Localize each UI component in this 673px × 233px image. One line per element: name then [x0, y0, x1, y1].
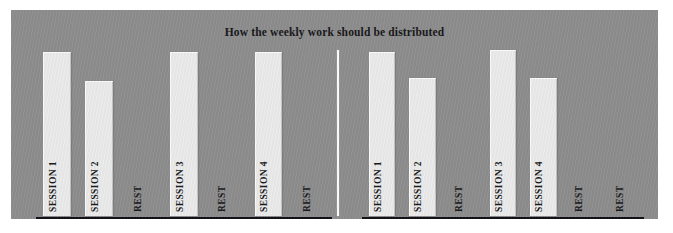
bar-label: SESSION 4: [534, 161, 544, 212]
bar-slot: SESSION 2: [78, 50, 120, 216]
rest-label: REST: [615, 186, 625, 212]
bar-slot: SESSION 4: [247, 50, 289, 216]
rest-label: REST: [454, 186, 464, 212]
bar-group-left: SESSION 1SESSION 2RESTSESSION 3RESTSESSI…: [36, 50, 332, 216]
bar-group-right: SESSION 1SESSION 2RESTSESSION 3SESSION 4…: [362, 50, 644, 216]
bar-slot: SESSION 3: [483, 50, 523, 216]
baseline-axis-left: [36, 217, 332, 219]
bar: SESSION 2: [409, 78, 436, 216]
bar: SESSION 3: [170, 52, 198, 216]
rest-label: REST: [217, 186, 227, 212]
rest-label: REST: [574, 186, 584, 212]
rest-slot: REST: [290, 50, 332, 216]
bar: SESSION 3: [490, 50, 517, 216]
bar: SESSION 1: [43, 52, 71, 216]
bar-slot: SESSION 1: [36, 50, 78, 216]
chart-panel-right: SESSION 1SESSION 2RESTSESSION 3SESSION 4…: [362, 50, 644, 216]
rest-slot: REST: [443, 50, 483, 216]
bar-slot: SESSION 3: [163, 50, 205, 216]
bar: SESSION 4: [255, 52, 283, 216]
bar-label: SESSION 4: [259, 161, 269, 212]
plot-area-right: SESSION 1SESSION 2RESTSESSION 3SESSION 4…: [362, 50, 644, 216]
rest-slot: REST: [121, 50, 163, 216]
bar-label: SESSION 1: [373, 161, 383, 212]
bar-label: SESSION 3: [494, 161, 504, 212]
bar-slot: SESSION 1: [362, 50, 402, 216]
rest-label: REST: [302, 186, 312, 212]
chart-panel-left: SESSION 1SESSION 2RESTSESSION 3RESTSESSI…: [36, 50, 332, 216]
rest-slot: REST: [604, 50, 644, 216]
bar-label: SESSION 2: [90, 161, 100, 212]
bar-label: SESSION 1: [48, 161, 58, 212]
plot-area-left: SESSION 1SESSION 2RESTSESSION 3RESTSESSI…: [36, 50, 332, 216]
panel-divider: [337, 50, 339, 216]
bar-slot: SESSION 2: [402, 50, 442, 216]
rest-label: REST: [133, 186, 143, 212]
bar-label: SESSION 3: [175, 161, 185, 212]
bar: SESSION 2: [85, 81, 113, 216]
bar: SESSION 4: [530, 78, 557, 216]
bar-label: SESSION 2: [413, 161, 423, 212]
figure-panel: How the weekly work should be distribute…: [11, 10, 658, 219]
baseline-axis-right: [362, 217, 644, 219]
rest-slot: REST: [205, 50, 247, 216]
bar-slot: SESSION 4: [523, 50, 563, 216]
chart-title: How the weekly work should be distribute…: [11, 26, 658, 38]
rest-slot: REST: [563, 50, 603, 216]
bar: SESSION 1: [369, 52, 396, 216]
